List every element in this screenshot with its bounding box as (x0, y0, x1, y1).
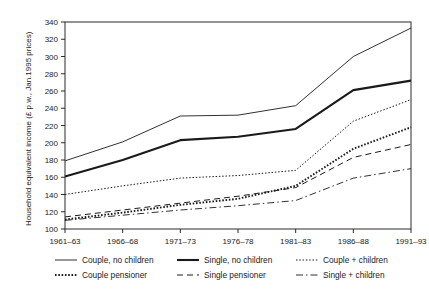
legend-label[interactable]: Couple, no children (82, 255, 154, 265)
x-tick-label: 1981–83 (280, 237, 312, 246)
legend-label[interactable]: Couple + children (323, 255, 388, 265)
legend-label[interactable]: Couple pensioner (82, 270, 147, 280)
x-tick-label: 1966–68 (107, 237, 139, 246)
x-tick-label: 1976–78 (222, 237, 254, 246)
y-tick-label: 140 (45, 191, 59, 200)
y-tick-label: 300 (45, 53, 59, 62)
y-tick-label: 120 (45, 208, 59, 217)
y-tick-label: 260 (45, 87, 59, 96)
x-tick-label: 1986–88 (338, 237, 370, 246)
chart-figure: Household equivalent income (£ p.w., Jan… (0, 0, 429, 293)
y-tick-label: 180 (45, 156, 59, 165)
figure-background (0, 0, 429, 293)
legend-label[interactable]: Single pensioner (204, 270, 266, 280)
y-tick-label: 280 (45, 70, 59, 79)
y-tick-label: 200 (45, 139, 59, 148)
y-tick-label: 320 (45, 35, 59, 44)
chart-svg: Household equivalent income (£ p.w., Jan… (0, 0, 429, 293)
x-tick-label: 1991–93 (395, 237, 427, 246)
chart-canvas: Household equivalent income (£ p.w., Jan… (0, 0, 429, 293)
x-tick-label: 1961–63 (49, 237, 81, 246)
y-axis-title-text: Household equivalent income (£ p.w., Jan… (24, 31, 33, 226)
y-tick-label: 100 (45, 225, 59, 234)
x-tick-label: 1971–73 (165, 237, 197, 246)
y-tick-label: 340 (45, 18, 59, 27)
legend-label[interactable]: Single + children (323, 270, 385, 280)
y-axis-title: Household equivalent income (£ p.w., Jan… (24, 31, 33, 226)
y-tick-label: 240 (45, 104, 59, 113)
legend-label[interactable]: Single, no children (204, 255, 273, 265)
y-tick-label: 160 (45, 173, 59, 182)
y-tick-label: 220 (45, 122, 59, 131)
